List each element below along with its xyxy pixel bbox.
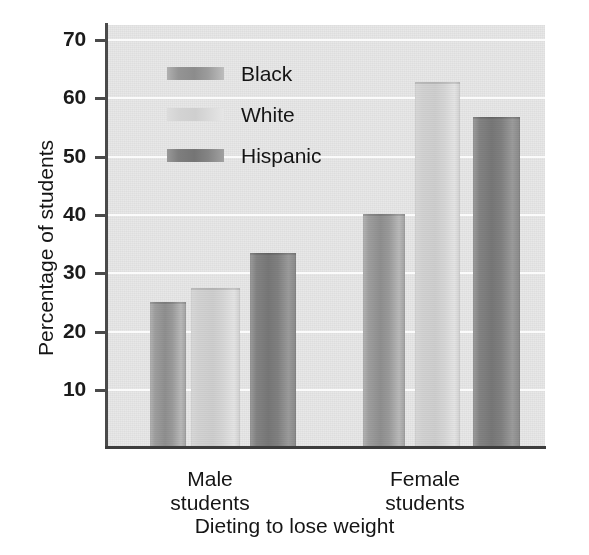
bar-top-highlight [473,117,520,119]
gridline-70 [107,39,545,41]
group-label-male: Male students [130,467,290,516]
bar-male-white [191,288,240,447]
bar-top-highlight [363,214,405,216]
plot-area: Black White Hispanic [107,25,545,447]
x-axis-title: Dieting to lose weight [0,514,589,538]
group-label-female-line1: Female [345,467,505,491]
y-axis-title: Percentage of students [34,98,58,398]
legend-swatch-white-icon [167,108,224,121]
y-tick-60 [95,97,108,100]
bar-top-highlight [415,82,460,84]
legend-item-hispanic: Hispanic [167,139,322,171]
group-label-male-line2: students [130,491,290,515]
group-label-male-line1: Male [130,467,290,491]
y-axis-line [105,23,108,449]
bar-top-highlight [150,302,186,304]
y-tick-30 [95,272,108,275]
bar-top-highlight [250,253,296,255]
x-axis-line [105,446,546,449]
bar-female-white [415,82,460,447]
y-tick-20 [95,331,108,334]
group-label-female: Female students [345,467,505,516]
legend-item-black: Black [167,57,322,89]
bar-male-black [150,302,186,447]
bar-male-hispanic [250,253,296,447]
y-tick-50 [95,156,108,159]
legend-swatch-black-icon [167,67,224,80]
bar-top-highlight [191,288,240,290]
legend-label-black: Black [241,63,292,84]
y-tick-70 [95,39,108,42]
y-tick-10 [95,389,108,392]
y-tick-label-70: 70 [26,27,86,51]
y-tick-40 [95,214,108,217]
legend-label-white: White [241,104,295,125]
bar-chart: Black White Hispanic 70 60 50 40 30 20 1… [0,0,589,555]
group-label-female-line2: students [345,491,505,515]
legend-swatch-hispanic-icon [167,149,224,162]
chart-legend: Black White Hispanic [167,57,322,180]
legend-item-white: White [167,98,322,130]
legend-label-hispanic: Hispanic [241,145,322,166]
bar-female-hispanic [473,117,520,447]
bar-female-black [363,214,405,447]
